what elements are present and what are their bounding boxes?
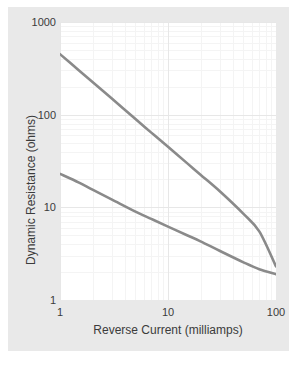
y-axis-title: Dynamic Resistance (ohms) [24, 115, 38, 265]
series-line-upper-curve [60, 54, 276, 266]
y-tick-label-1: 1 [50, 295, 56, 306]
x-tick-label-1: 1 [57, 307, 63, 318]
y-tick-label-100: 100 [38, 109, 56, 120]
data-curves [60, 22, 276, 300]
x-tick-label-10: 10 [162, 307, 174, 318]
chart-figure: 1000 100 10 1 1 10 100 Reverse Current (… [0, 0, 297, 369]
y-tick-label-10: 10 [44, 202, 56, 213]
plot-area [60, 22, 276, 300]
x-axis-title: Reverse Current (milliamps) [60, 323, 276, 337]
y-tick-label-1000: 1000 [32, 17, 56, 28]
series-line-lower-curve [60, 174, 276, 274]
figure-panel: 1000 100 10 1 1 10 100 Reverse Current (… [8, 7, 289, 351]
x-tick-label-100: 100 [267, 307, 285, 318]
